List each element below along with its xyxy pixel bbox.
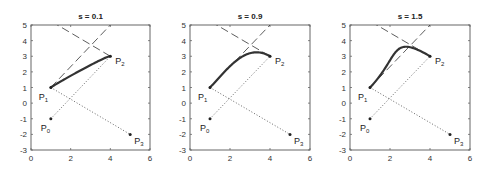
y-tick-label: 5 bbox=[182, 21, 187, 30]
y-tick-label: -3 bbox=[20, 146, 28, 155]
x-tick-label: 6 bbox=[308, 154, 313, 163]
control-point-p2 bbox=[269, 55, 272, 58]
y-tick-label: -3 bbox=[339, 146, 347, 155]
x-tick-label: 4 bbox=[428, 154, 433, 163]
y-tick-label: -2 bbox=[179, 130, 187, 139]
y-tick-label: 3 bbox=[23, 52, 28, 61]
plot-title: s = 1.5 bbox=[398, 12, 423, 21]
y-tick-label: 1 bbox=[342, 84, 347, 93]
y-tick-label: 4 bbox=[182, 37, 187, 46]
y-tick-label: -2 bbox=[339, 130, 347, 139]
control-point-p1 bbox=[209, 86, 212, 89]
y-tick-label: 0 bbox=[23, 99, 28, 108]
plot-panel-1: 0246-3-2-1012345s = 0.1P0P1P2P3 bbox=[20, 9, 153, 163]
y-tick-label: 5 bbox=[23, 21, 28, 30]
x-tick-label: 6 bbox=[148, 154, 153, 163]
y-tick-label: 5 bbox=[342, 21, 347, 30]
control-point-p3 bbox=[289, 133, 292, 136]
x-tick-label: 2 bbox=[388, 154, 393, 163]
control-point-p0 bbox=[369, 117, 372, 120]
y-tick-label: 3 bbox=[182, 52, 187, 61]
plot-panel-2: 0246-3-2-1012345s = 0.9P0P1P2P3 bbox=[179, 9, 313, 163]
control-point-p2 bbox=[109, 55, 112, 58]
x-tick-label: 4 bbox=[108, 154, 113, 163]
x-tick-label: 6 bbox=[468, 154, 473, 163]
x-tick-label: 0 bbox=[29, 154, 34, 163]
x-tick-label: 2 bbox=[228, 154, 233, 163]
plot-title: s = 0.1 bbox=[78, 12, 103, 21]
y-tick-label: 1 bbox=[23, 84, 28, 93]
y-tick-label: -2 bbox=[20, 130, 28, 139]
y-tick-label: 2 bbox=[182, 68, 187, 77]
y-tick-label: 1 bbox=[182, 84, 187, 93]
control-point-p2 bbox=[429, 55, 432, 58]
y-tick-label: -1 bbox=[179, 115, 187, 124]
y-tick-label: -1 bbox=[339, 115, 347, 124]
y-tick-label: 2 bbox=[23, 68, 28, 77]
x-tick-label: 0 bbox=[348, 154, 353, 163]
y-tick-label: 2 bbox=[342, 68, 347, 77]
control-point-p0 bbox=[209, 117, 212, 120]
y-tick-label: 3 bbox=[342, 52, 347, 61]
control-point-p0 bbox=[49, 117, 52, 120]
y-tick-label: 0 bbox=[342, 99, 347, 108]
figure: 0246-3-2-1012345s = 0.1P0P1P2P30246-3-2-… bbox=[0, 0, 491, 169]
y-tick-label: 0 bbox=[182, 99, 187, 108]
y-tick-label: 4 bbox=[342, 37, 347, 46]
x-tick-label: 0 bbox=[188, 154, 193, 163]
control-point-p3 bbox=[449, 133, 452, 136]
control-point-p1 bbox=[49, 86, 52, 89]
y-tick-label: -3 bbox=[179, 146, 187, 155]
y-tick-label: 4 bbox=[23, 37, 28, 46]
x-tick-label: 4 bbox=[268, 154, 273, 163]
plot-panel-3: 0246-3-2-1012345s = 1.5P0P1P2P3 bbox=[339, 9, 473, 163]
control-point-p3 bbox=[129, 133, 132, 136]
y-tick-label: -1 bbox=[20, 115, 28, 124]
x-tick-label: 2 bbox=[68, 154, 73, 163]
plot-title: s = 0.9 bbox=[238, 12, 263, 21]
control-point-p1 bbox=[369, 86, 372, 89]
